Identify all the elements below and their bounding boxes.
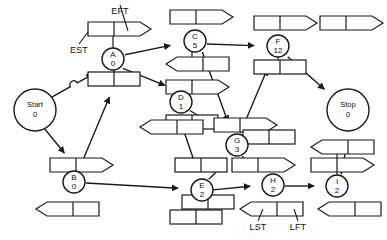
node-label-stop: Stop [340,100,355,109]
node-value-G: 3 [235,145,240,154]
est-eft-box-legend [88,22,151,36]
node-D[interactable]: D1 [170,91,192,113]
est-eft-box-F-in [254,60,306,74]
node-value-A: 0 [111,59,116,68]
edge-path [213,186,250,190]
box-outline [232,158,295,172]
diagram-canvas: Start0Stop0A0B0C5D1E2F12G3H2I2 ESTEFTLST… [0,0,387,240]
box-outline [36,202,99,216]
edge-C-F [207,44,254,46]
node-value-F: 12 [274,46,283,55]
edge-start-A [51,74,93,97]
lst-lft-box-B [36,202,99,216]
node-A[interactable]: A0 [102,48,124,70]
node-value-start: 0 [33,110,37,119]
lst-lft-box-legend [240,202,303,216]
box-outline [318,202,381,216]
node-value-B: 0 [72,182,77,191]
node-start[interactable]: Start0 [14,89,56,131]
box-outline [320,16,383,30]
lst-lft-box-G [243,130,295,144]
lst-lft-box-D [140,120,203,134]
node-value-H: 2 [271,185,276,194]
node-I[interactable]: I2 [326,175,348,197]
lst-lft-box-E [170,210,222,224]
box-outline [240,202,303,216]
est-eft-box-H [232,158,295,172]
edge-path [86,183,178,188]
edge-path [207,44,254,46]
est-label-text: EST [70,45,88,55]
box-outline [170,10,233,24]
box-outline [140,120,203,134]
edge-path [125,45,170,54]
est-eft-box-B [50,158,113,172]
est-eft-box-F [254,16,317,30]
node-F[interactable]: F12 [267,35,289,57]
edge-path [45,129,65,153]
est-label: EST [70,32,88,55]
est-eft-box-I [311,158,374,172]
edge-start-B [45,129,65,153]
est-eft-box-G-in [175,158,227,172]
lst-lft-box-I [318,202,381,216]
node-stop[interactable]: Stop0 [327,89,369,131]
box-outline [88,22,151,36]
lst-label-text: LST [249,222,266,232]
box-outline [311,140,374,154]
edge-path [51,74,93,97]
node-value-D: 1 [179,102,184,111]
box-outline [254,16,317,30]
node-H[interactable]: H2 [262,174,284,196]
est-label-leader [79,32,88,44]
est-eft-box-C [170,10,233,24]
node-G[interactable]: G3 [226,134,248,156]
node-C[interactable]: C5 [184,30,206,52]
box-outline [166,57,229,71]
box-outline [50,158,113,172]
eft-label-text: EFT [111,6,129,16]
edge-A-C [125,45,170,54]
est-eft-box-stop [320,16,383,30]
node-value-E: 2 [200,190,205,199]
lst-lft-box-I-u [311,140,374,154]
node-E[interactable]: E2 [191,179,213,201]
box-outline [311,158,374,172]
lft-label-text: LFT [290,222,307,232]
node-value-I: 2 [335,186,340,195]
edge-E-H [213,186,250,190]
lst-lft-box-C [166,57,229,71]
node-B[interactable]: B0 [63,171,85,193]
node-value-stop: 0 [346,110,350,119]
node-value-C: 5 [193,41,198,50]
network-diagram: Start0Stop0A0B0C5D1E2F12G3H2I2 ESTEFTLST… [0,0,387,240]
edge-B-E [86,183,178,188]
est-eft-box-A [88,72,140,86]
node-label-start: Start [27,100,44,109]
